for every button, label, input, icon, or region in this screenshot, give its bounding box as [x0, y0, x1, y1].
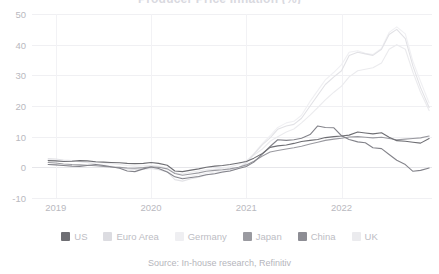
- source-note: Source: In-house research, Refinitiv: [0, 258, 439, 268]
- y-axis-tick-label: 0: [0, 162, 26, 173]
- legend-label: Japan: [256, 231, 282, 242]
- legend-item-china[interactable]: China: [298, 231, 336, 242]
- legend-swatch-icon: [61, 232, 70, 241]
- legend-label: UK: [365, 231, 378, 242]
- y-axis-tick-label: 20: [0, 101, 26, 112]
- legend-item-euro-area[interactable]: Euro Area: [103, 231, 158, 242]
- legend-label: China: [311, 231, 336, 242]
- series-line-japan: [48, 136, 429, 175]
- legend-swatch-icon: [352, 232, 361, 241]
- series-line-germany: [48, 27, 429, 178]
- x-axis-tick-label: 2021: [236, 202, 257, 213]
- y-axis-tick-label: -10: [0, 193, 26, 204]
- plot-area: [32, 14, 432, 198]
- x-axis-tick-label: 2019: [45, 202, 66, 213]
- legend-swatch-icon: [175, 232, 184, 241]
- legend-swatch-icon: [243, 232, 252, 241]
- legend-item-germany[interactable]: Germany: [175, 231, 227, 242]
- x-axis-tick-label: 2022: [331, 202, 352, 213]
- y-axis-tick-label: 50: [0, 9, 26, 20]
- y-axis-tick-label: 40: [0, 39, 26, 50]
- legend-item-uk[interactable]: UK: [352, 231, 378, 242]
- y-axis-tick-label: 10: [0, 131, 26, 142]
- chart-container: Producer Price Inflation (%) 50403020100…: [0, 0, 439, 274]
- series-lines: [32, 14, 432, 198]
- legend-swatch-icon: [103, 232, 112, 241]
- x-axis-tick-label: 2020: [140, 202, 161, 213]
- series-line-euro-area: [48, 29, 429, 181]
- legend-swatch-icon: [298, 232, 307, 241]
- legend-label: US: [74, 231, 87, 242]
- chart-title: Producer Price Inflation (%): [0, 0, 439, 4]
- legend-item-japan[interactable]: Japan: [243, 231, 282, 242]
- series-line-uk: [48, 45, 429, 174]
- y-axis-tick-label: 30: [0, 70, 26, 81]
- legend-item-us[interactable]: US: [61, 231, 87, 242]
- chart-legend: USEuro AreaGermanyJapanChinaUK: [0, 231, 439, 242]
- gridline: [32, 198, 432, 199]
- legend-label: Euro Area: [116, 231, 158, 242]
- legend-label: Germany: [188, 231, 227, 242]
